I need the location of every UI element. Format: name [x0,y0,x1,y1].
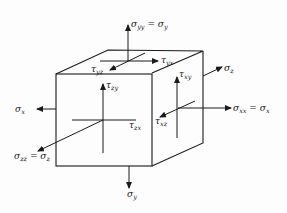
side-face-stresses [160,67,231,138]
label-tau-zy: τzy [106,80,118,92]
label-tau-xy: τxy [179,69,192,81]
label-sigma-zz: σzz = σz [14,151,50,163]
label-sigma-yy: σyy = σy [131,19,168,31]
diagram-svg: σyy = σy τyx τyz σz τxy τzy σx σxx = σx … [0,0,287,213]
label-sigma-z: σz [224,63,234,75]
label-tau-xz: τxz [155,116,168,128]
sigma-zz-arrow [38,120,103,151]
stress-cube-diagram: σyy = σy τyx τyz σz τxy τzy σx σxx = σx … [0,0,287,213]
top-face-stresses [100,25,158,70]
label-sigma-y: σy [127,189,137,201]
front-face-stresses [37,84,136,153]
sigma-z-arrow [203,67,222,76]
label-sigma-xx: σxx = σx [233,103,270,115]
label-tau-yx: τyx [161,55,174,67]
label-tau-zx: τzx [129,120,141,132]
label-sigma-x: σx [15,104,25,116]
